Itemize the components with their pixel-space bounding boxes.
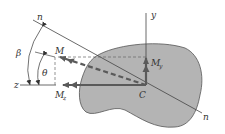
label-My-sub: y bbox=[158, 62, 163, 70]
label-Mz-sub: z bbox=[62, 94, 67, 101]
moment-vector-Mz-second-head bbox=[70, 82, 77, 89]
label-beta: β bbox=[15, 48, 21, 58]
label-z-axis: z bbox=[13, 80, 19, 90]
label-moment-M: M bbox=[54, 46, 65, 56]
bending-moment-diagram: n n y z β θ M C M y M z bbox=[0, 0, 225, 134]
label-y-axis: y bbox=[150, 10, 157, 20]
label-n-top: n bbox=[37, 12, 43, 22]
label-theta: θ bbox=[42, 68, 48, 78]
label-n-bottom: n bbox=[203, 112, 209, 122]
label-C: C bbox=[139, 90, 146, 100]
moment-direction-line bbox=[35, 52, 55, 57]
beta-arc bbox=[28, 27, 42, 85]
label-Mz: M z bbox=[54, 90, 67, 101]
